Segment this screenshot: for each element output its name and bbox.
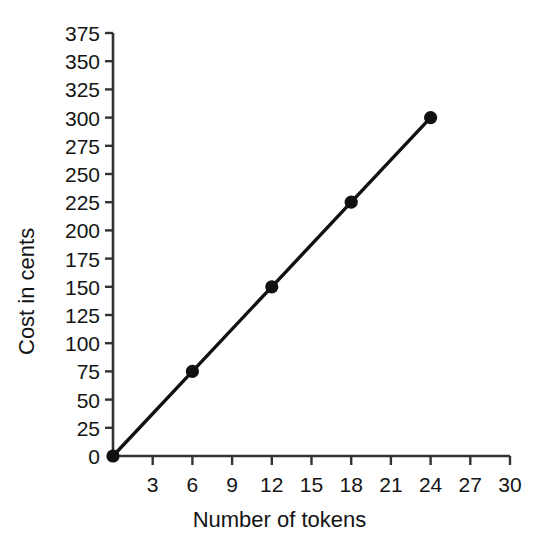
x-axis-title: Number of tokens [0,509,559,531]
y-axis-tick-label: 100 [65,333,100,354]
y-axis-tick-label: 350 [65,51,100,72]
y-axis-title: Cost in cents [16,55,38,355]
x-axis-tick-label: 21 [379,474,402,495]
data-point-marker [186,365,199,378]
x-axis-tick-label: 24 [419,474,442,495]
y-axis-tick-label: 300 [65,107,100,128]
x-axis-tick-label: 12 [260,474,283,495]
data-point-marker [345,196,358,209]
y-axis-tick-label: 125 [65,305,100,326]
x-axis-tick-label: 18 [340,474,363,495]
x-axis-tick-label: 9 [226,474,238,495]
y-axis-tick-label: 200 [65,220,100,241]
y-axis-tick-label: 250 [65,164,100,185]
y-axis-tick-label: 325 [65,79,100,100]
data-point-marker [424,111,437,124]
y-axis-tick-label: 175 [65,248,100,269]
x-axis-tick-label: 27 [459,474,482,495]
y-axis-tick-label: 225 [65,192,100,213]
y-axis-tick-label: 25 [77,417,100,438]
y-axis-tick-label: 50 [77,389,100,410]
x-axis-tick-label: 30 [498,474,521,495]
x-axis-tick-label: 3 [147,474,159,495]
data-point-marker [265,280,278,293]
x-axis-tick-label: 6 [187,474,199,495]
y-axis-tick-label: 0 [88,446,100,467]
chart-figure: 0255075100125150175200225250275300325350… [0,0,559,547]
y-axis-tick-label: 375 [65,23,100,44]
data-point-marker [106,449,119,462]
y-axis-tick-label: 150 [65,276,100,297]
x-axis-tick-label: 15 [300,474,323,495]
y-axis-tick-label: 75 [77,361,100,382]
y-axis-tick-label: 275 [65,135,100,156]
